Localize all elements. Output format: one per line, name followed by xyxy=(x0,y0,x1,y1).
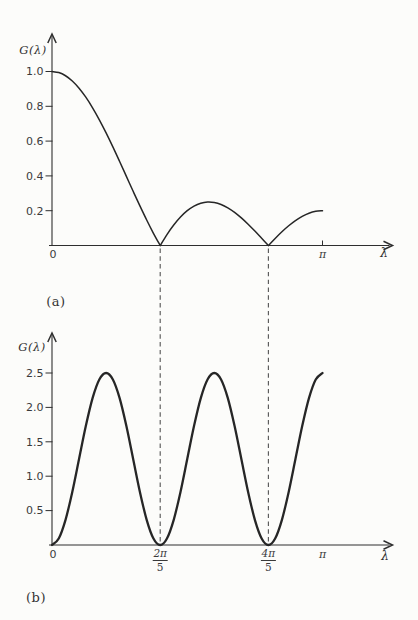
chart-b-xtick-fraction-denominator: 5 xyxy=(157,561,164,573)
chart-b-xtick-fraction-numerator: 4π xyxy=(261,547,277,559)
chart-a-xtick-label: 0 xyxy=(50,248,57,261)
chart-a-xlabel: λ xyxy=(380,246,388,260)
chart-a-ytick-label: 0.4 xyxy=(26,170,44,183)
chart-a-ytick-label: 0.8 xyxy=(26,100,44,113)
chart-b-xlabel: λ xyxy=(381,549,389,563)
chart-b-ylabel: G(λ) xyxy=(18,340,45,354)
chart-b-xtick-fraction-numerator: 2π xyxy=(152,547,168,559)
chart-b-xtick-fraction-denominator: 5 xyxy=(265,561,272,573)
chart-a-ytick-label: 1.0 xyxy=(26,65,44,78)
chart-a-ylabel: G(λ) xyxy=(19,43,46,57)
chart-a-xtick-label: π xyxy=(318,248,327,261)
chart-a-caption: (a) xyxy=(46,294,65,309)
chart-b-ytick-label: 2.0 xyxy=(26,401,44,414)
chart-a-curve xyxy=(52,72,160,246)
chart-a-curve xyxy=(160,202,268,246)
chart-a-ytick-label: 0.2 xyxy=(26,205,44,218)
chart-a-ytick-label: 0.6 xyxy=(26,135,44,148)
chart-b-ytick-label: 1.0 xyxy=(26,470,44,483)
chart-b-xtick-label: 0 xyxy=(50,548,57,561)
chart-b-caption: (b) xyxy=(26,590,46,605)
chart-b-ytick-label: 1.5 xyxy=(26,436,44,449)
chart-a-curve xyxy=(268,211,322,246)
chart-b-ytick-label: 2.5 xyxy=(26,367,44,380)
chart-b-curve xyxy=(52,373,323,545)
chart-b-xtick-label: π xyxy=(318,548,327,561)
figure-canvas: 0.20.40.60.81.00π0.51.01.52.02.502π54π5π… xyxy=(0,0,418,620)
chart-b-ytick-label: 0.5 xyxy=(26,504,44,517)
charts-svg: 0.20.40.60.81.00π0.51.01.52.02.502π54π5π xyxy=(0,0,418,620)
